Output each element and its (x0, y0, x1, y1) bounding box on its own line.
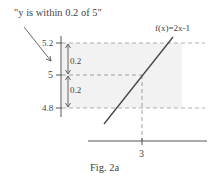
figure-caption: Fig. 2a (90, 163, 119, 174)
tolerance-band (62, 43, 182, 108)
y-tick-label-5: 5 (48, 70, 53, 80)
y-tick-label-4-8: 4.8 (42, 104, 53, 113)
annotation-text: "y is within 0.2 of 5" (14, 8, 102, 19)
function-label: f(x)=2x-1 (155, 24, 190, 33)
y-tick-label-5-2: 5.2 (42, 39, 53, 48)
interval-label-upper: 0.2 (70, 57, 81, 66)
x-tick-label-3: 3 (139, 149, 144, 159)
interval-label-lower: 0.2 (70, 86, 81, 95)
